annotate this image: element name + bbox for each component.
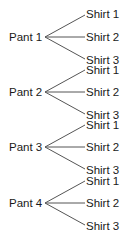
- branch-line: [45, 37, 85, 59]
- shirt-label: Shirt 2: [86, 197, 119, 209]
- shirt-label: Shirt 1: [86, 119, 119, 131]
- branch-line: [45, 70, 85, 92]
- shirt-label: Shirt 2: [86, 141, 119, 153]
- tree-diagram: Pant 1 Shirt 1 Shirt 2 Shirt 3 Pant 2 Sh…: [0, 0, 129, 243]
- branch-line: [45, 125, 85, 147]
- branch-line: [45, 181, 85, 203]
- shirt-label: Shirt 2: [86, 86, 119, 98]
- branch-line: [45, 203, 85, 225]
- pant-label: Pant 2: [9, 86, 42, 98]
- shirt-label: Shirt 3: [86, 220, 119, 232]
- pant-label: Pant 4: [9, 197, 42, 209]
- shirt-label: Shirt 1: [86, 175, 119, 187]
- shirt-label: Shirt 1: [86, 64, 119, 76]
- branch-line: [45, 92, 85, 114]
- shirt-label: Shirt 2: [86, 31, 119, 43]
- pant-label: Pant 3: [9, 141, 42, 153]
- shirt-label: Shirt 1: [86, 8, 119, 20]
- pant-label: Pant 1: [9, 31, 42, 43]
- branch-line: [45, 147, 85, 169]
- branch-line: [45, 15, 85, 37]
